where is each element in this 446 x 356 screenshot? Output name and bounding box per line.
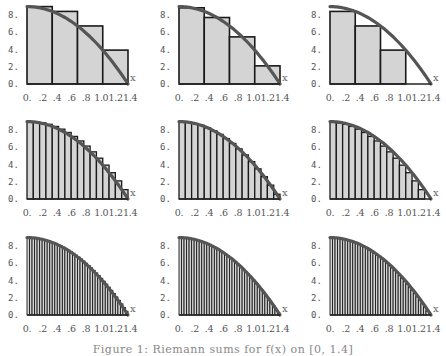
x-tick-label: 0. <box>326 323 335 334</box>
y-tick-label: 6. <box>311 258 322 268</box>
riemann-panel-right-n40: 0.2.4.6.8.0..2.4.6.81.01.21.4x <box>0 0 150 118</box>
figure-caption: Figure 1: Riemann sums for f(x) on [0, 1… <box>0 343 446 356</box>
x-tick-label: 1.4 <box>426 323 440 334</box>
y-tick-label: 8. <box>311 241 322 251</box>
x-tick-label: 1.0 <box>397 323 411 334</box>
x-tick-label: .6 <box>370 323 379 334</box>
x-tick-label: .8 <box>385 323 394 334</box>
y-tick-label: 0. <box>311 310 322 320</box>
x-tick-label: .4 <box>356 323 365 334</box>
x-tick-label: .2 <box>341 323 350 334</box>
x-tick-label: 1.2 <box>412 323 426 334</box>
x-axis-label: x <box>433 303 439 314</box>
riemann-bars <box>330 238 428 315</box>
y-tick-label: 4. <box>311 276 322 286</box>
y-tick-label: 2. <box>311 293 322 303</box>
